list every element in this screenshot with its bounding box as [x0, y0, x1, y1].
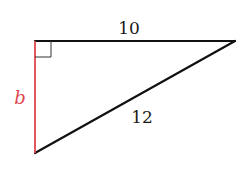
right-triangle-diagram: 10 12 b [0, 0, 243, 177]
top-leg-label: 10 [118, 18, 140, 38]
left-leg-label: b [14, 87, 26, 108]
right-angle-marker [35, 41, 51, 57]
hypotenuse [35, 41, 235, 153]
hypotenuse-label: 12 [131, 107, 153, 127]
